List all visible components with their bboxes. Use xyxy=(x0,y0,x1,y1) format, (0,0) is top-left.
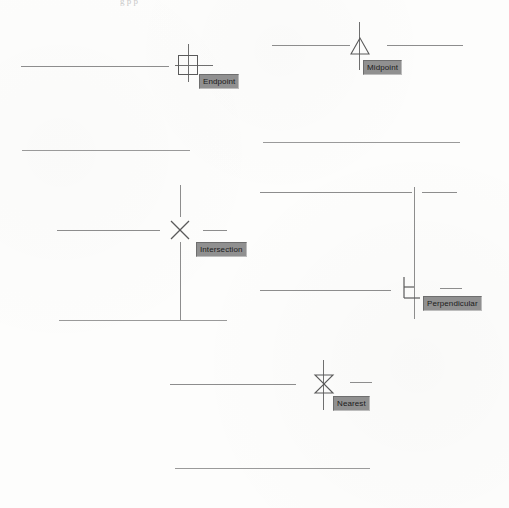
midpoint-lower-line xyxy=(263,142,460,143)
panel-perpendicular: Perpendicular xyxy=(255,170,509,330)
nearest-tooltip: Nearest xyxy=(333,396,370,411)
intersection-marker-x-icon xyxy=(168,218,192,242)
scanned-page: g p p Endpoint Midpoint xyxy=(0,0,509,508)
endpoint-marker-square-icon xyxy=(178,55,198,75)
panel-endpoint: Endpoint xyxy=(0,0,255,170)
panel-nearest: Nearest xyxy=(150,340,400,508)
panel-intersection: Intersection xyxy=(0,170,255,330)
intersection-bottom-line xyxy=(59,320,227,321)
intersection-tooltip: Intersection xyxy=(196,242,247,257)
perpendicular-bottom-line xyxy=(260,290,391,291)
endpoint-lower-line xyxy=(22,150,190,151)
intersection-horizontal-right xyxy=(203,230,227,231)
nearest-upper-line xyxy=(170,384,296,385)
panel-midpoint: Midpoint xyxy=(255,0,509,170)
perpendicular-marker-right-angle-icon xyxy=(400,276,422,300)
midpoint-marker-triangle-icon xyxy=(348,36,372,56)
nearest-marker-bowtie-icon xyxy=(312,373,336,395)
endpoint-tooltip: Endpoint xyxy=(199,74,239,89)
intersection-horizontal-left xyxy=(57,230,160,231)
midpoint-right-segment xyxy=(387,45,463,46)
perpendicular-tooltip: Perpendicular xyxy=(423,296,482,311)
perpendicular-top-line-right xyxy=(422,192,457,193)
nearest-upper-line-stub xyxy=(350,382,372,383)
intersection-vertical-lower xyxy=(180,242,181,321)
intersection-vertical-upper xyxy=(180,185,181,217)
nearest-lower-line xyxy=(175,468,370,469)
perpendicular-bottom-line-stub xyxy=(440,288,462,289)
perpendicular-top-line-left xyxy=(260,192,412,193)
endpoint-upper-line xyxy=(21,66,169,67)
midpoint-tooltip: Midpoint xyxy=(363,60,402,75)
midpoint-left-segment xyxy=(272,45,350,46)
